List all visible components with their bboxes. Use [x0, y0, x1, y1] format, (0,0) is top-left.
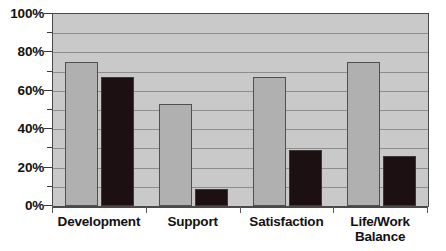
y-axis-tick-label: 100% — [10, 6, 44, 21]
x-axis-tick-mark — [240, 206, 241, 213]
bar — [289, 150, 322, 206]
x-axis-category-label: Support — [167, 214, 217, 229]
x-axis-tick-mark — [52, 206, 53, 213]
y-axis-tick-label: 20% — [18, 159, 44, 174]
bar — [253, 77, 286, 206]
y-axis: 0%20%40%60%80%100% — [0, 0, 50, 251]
x-axis-category-label: Satisfaction — [249, 214, 323, 229]
bar — [65, 62, 98, 206]
x-axis-category-label: Development — [58, 214, 141, 229]
y-axis-tick-label: 60% — [18, 82, 44, 97]
y-axis-tick-label: 40% — [18, 121, 44, 136]
bars-layer — [53, 14, 428, 206]
bar — [383, 156, 416, 206]
y-axis-tick-mark — [44, 90, 52, 91]
y-axis-tick-mark — [44, 51, 52, 52]
y-axis-tick-mark — [44, 167, 52, 168]
bar — [347, 62, 380, 206]
bar — [159, 104, 192, 206]
x-axis-tick-mark — [427, 206, 428, 213]
bar — [101, 77, 134, 206]
y-axis-tick-mark — [44, 128, 52, 129]
bar-chart: 0%20%40%60%80%100% DevelopmentSupportSat… — [0, 0, 446, 251]
y-axis-tick-label: 80% — [18, 44, 44, 59]
y-axis-tick-label: 0% — [25, 198, 44, 213]
x-axis-tick-mark — [333, 206, 334, 213]
bar — [195, 189, 228, 206]
x-axis-category-label: Life/Work Balance — [350, 214, 409, 244]
x-axis-tick-mark — [146, 206, 147, 213]
plot-area — [52, 13, 429, 207]
y-axis-tick-mark — [44, 13, 52, 14]
y-axis-tick-mark — [44, 205, 52, 206]
